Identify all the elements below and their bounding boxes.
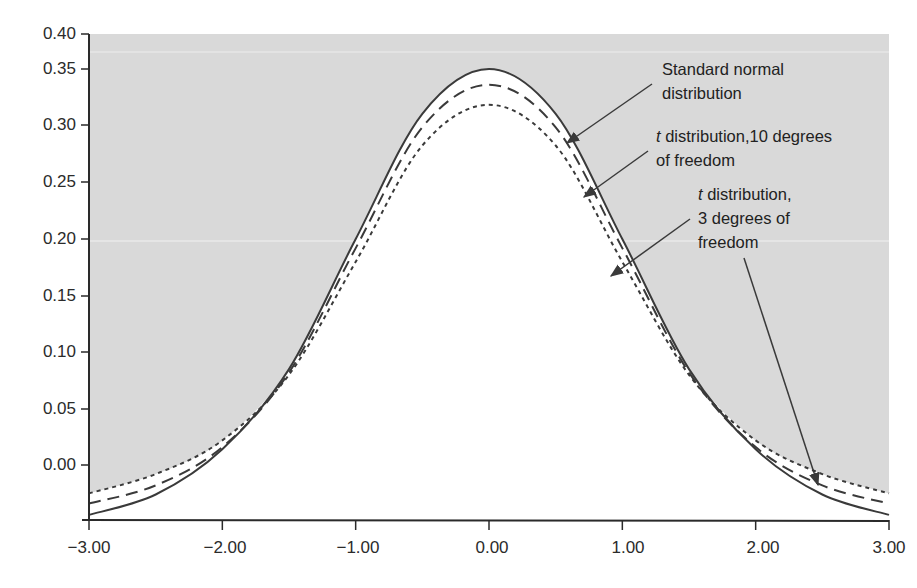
y-tick-label: 0.30 <box>6 115 76 135</box>
y-tick-label: 0.25 <box>6 172 76 192</box>
annotation-t3: t distribution, 3 degrees of freedom <box>698 182 792 254</box>
annotation-text: distribution, <box>703 185 792 203</box>
y-ticks <box>81 34 89 465</box>
x-tick-label: −3.00 <box>49 538 129 558</box>
x-tick-label: −1.00 <box>318 538 398 558</box>
y-tick-label: 0.00 <box>6 455 76 475</box>
y-tick-label: 0.10 <box>6 342 76 362</box>
annotation-line: 3 degrees of <box>698 206 792 230</box>
y-tick-label: 0.05 <box>6 399 76 419</box>
annotation-line: t distribution, <box>698 182 792 206</box>
x-tick-label: 1.00 <box>588 538 668 558</box>
x-axis <box>82 520 889 521</box>
annotation-standard-normal: Standard normal distribution <box>662 57 784 105</box>
x-tick-label: 2.00 <box>723 538 803 558</box>
annotation-text: distribution,10 degrees <box>661 127 833 145</box>
annotation-line: distribution <box>662 81 784 105</box>
x-tick-label: 0.00 <box>452 538 532 558</box>
y-tick-label: 0.15 <box>6 286 76 306</box>
y-tick-label: 0.20 <box>6 229 76 249</box>
annotation-line: of freedom <box>656 148 832 172</box>
annotation-t10: t distribution,10 degrees of freedom <box>656 124 832 172</box>
y-tick-label: 0.35 <box>6 59 76 79</box>
y-tick-label: 0.40 <box>6 24 76 44</box>
annotation-line: t distribution,10 degrees <box>656 124 832 148</box>
annotation-line: Standard normal <box>662 57 784 81</box>
x-tick-label: 3.00 <box>849 538 917 558</box>
x-tick-label: −2.00 <box>185 538 265 558</box>
annotation-line: freedom <box>698 230 792 254</box>
